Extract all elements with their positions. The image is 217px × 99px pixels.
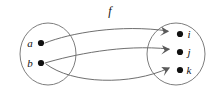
element-label-b: b bbox=[27, 57, 33, 69]
element-label-j: j bbox=[185, 46, 190, 58]
element-dot-k bbox=[177, 67, 183, 73]
element-label-k: k bbox=[187, 64, 193, 76]
arrow-head-j bbox=[161, 45, 170, 54]
arrow-b-to-j bbox=[45, 48, 169, 63]
element-dot-i bbox=[177, 31, 183, 37]
arrow-head-i bbox=[160, 27, 169, 36]
domain-set-boundary bbox=[20, 23, 76, 85]
function-mapping-diagram: a b i j k f bbox=[0, 0, 217, 99]
function-label: f bbox=[108, 4, 113, 18]
element-label-i: i bbox=[187, 28, 190, 40]
arrow-b-to-k bbox=[46, 64, 169, 80]
arrow-head-k bbox=[161, 67, 170, 76]
element-dot-j bbox=[177, 49, 183, 55]
codomain-set-boundary bbox=[147, 23, 205, 85]
element-dot-b bbox=[38, 60, 44, 66]
element-label-a: a bbox=[27, 37, 33, 49]
element-dot-a bbox=[38, 40, 44, 46]
mapping-diagram-canvas: a b i j k f bbox=[0, 0, 217, 99]
